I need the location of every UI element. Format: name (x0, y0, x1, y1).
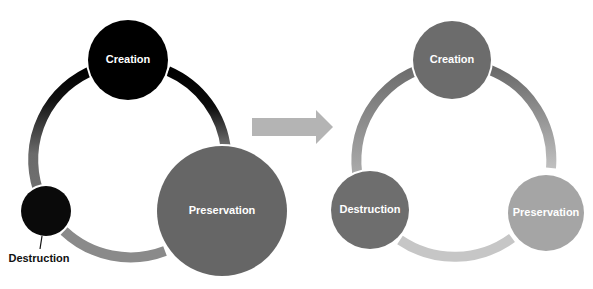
before-cycle: Creation Preservation Destruction (8, 18, 289, 278)
ring-arc-creation-to-preservation (490, 70, 551, 168)
ring-arc-creation-to-preservation (168, 71, 226, 150)
node-destruction: Destruction (329, 169, 411, 251)
node-destruction: Destruction (8, 184, 73, 264)
node-label-creation: Creation (430, 53, 475, 65)
node-creation: Creation (411, 19, 493, 101)
ring-arc-destruction-to-preservation (64, 231, 165, 257)
ring-arc-destruction-to-preservation (400, 238, 512, 257)
node-preservation: Preservation (155, 144, 289, 278)
ring-arc-creation-to-destruction (33, 69, 96, 190)
node-label-creation: Creation (106, 53, 151, 65)
transition-arrow-icon (252, 110, 333, 144)
node-label-destruction: Destruction (339, 203, 400, 215)
after-cycle: Creation Preservation Destruction (329, 19, 586, 257)
node-label-preservation: Preservation (513, 206, 580, 218)
node-label-preservation: Preservation (189, 204, 256, 216)
destruction-leader-line (40, 236, 42, 249)
node-label-destruction: Destruction (8, 252, 69, 264)
node-preservation: Preservation (506, 173, 586, 253)
node-creation: Creation (86, 18, 170, 102)
cycle-diagram: Creation Preservation Destruction Creati (0, 0, 593, 289)
